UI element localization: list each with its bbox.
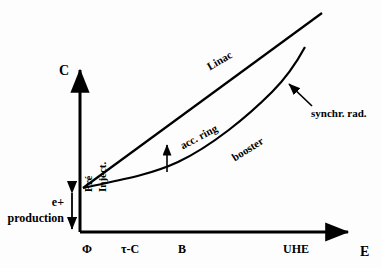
annotation-production: production: [0, 212, 64, 224]
annotation-pre: Pré: [83, 176, 94, 192]
annotation-synchr-rad: synchr. rad.: [311, 108, 367, 119]
x-axis-label: E: [360, 245, 369, 259]
annotation-e-plus: e+: [4, 196, 64, 208]
x-tick-tau-c: τ-C: [121, 243, 139, 255]
x-tick-b: B: [178, 243, 186, 255]
accelerator-cost-energy-diagram: C E Φ τ-C B UHE Linac acc. ring booster …: [0, 0, 382, 268]
booster-curve: [83, 47, 305, 188]
x-tick-uhe: UHE: [283, 243, 309, 255]
synchr-rad-pointer-arrow-icon: [289, 84, 312, 106]
linac-curve: [83, 13, 322, 188]
annotation-inject: Inject.: [97, 162, 108, 192]
y-axis-label: C: [59, 64, 69, 78]
x-tick-phi: Φ: [82, 243, 92, 255]
